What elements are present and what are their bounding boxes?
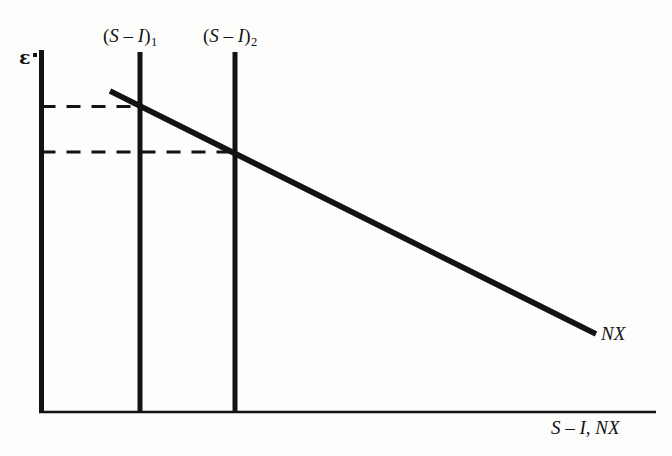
si2-minus: –	[219, 25, 238, 46]
si2-close-paren: )	[244, 25, 250, 46]
net-exports-diagram	[0, 0, 672, 456]
xaxis-minus: –	[561, 417, 580, 438]
si2-subscript: 2	[251, 35, 257, 49]
si1-close-paren: )	[144, 25, 150, 46]
y-axis-label: ε	[19, 48, 31, 67]
xaxis-nx: NX	[595, 417, 619, 438]
x-axis-label: S – I, NX	[551, 418, 620, 437]
si1-subscript: 1	[151, 35, 157, 49]
si2-s: S	[209, 25, 219, 46]
saving-investment-curve-1-label: (S – I)1	[103, 26, 157, 48]
y-axis-tick-dot	[33, 53, 37, 57]
net-exports-curve-label: NX	[601, 324, 625, 343]
xaxis-s: S	[551, 417, 561, 438]
xaxis-comma: ,	[586, 417, 596, 438]
net-exports-curve	[110, 91, 596, 334]
si1-minus: –	[119, 25, 138, 46]
saving-investment-curve-2-label: (S – I)2	[203, 26, 257, 48]
si1-s: S	[109, 25, 119, 46]
